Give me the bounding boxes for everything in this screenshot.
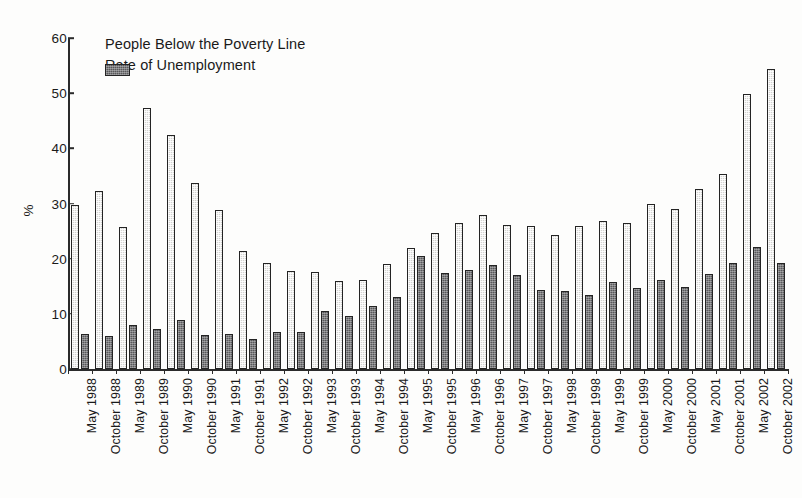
x-axis-tick-mark (500, 369, 501, 374)
plot-area (68, 38, 788, 369)
bar-unemployment (417, 256, 425, 369)
bar-poverty (359, 280, 367, 369)
x-axis-tick-label: October 1990 (205, 378, 219, 454)
x-axis-tick-mark (68, 369, 69, 374)
bar-poverty (407, 248, 415, 369)
legend-item-unemployment: Rate of Unemployment (105, 55, 305, 74)
bar-poverty (119, 227, 127, 369)
x-axis-tick-mark (164, 369, 165, 374)
bar-unemployment (729, 263, 737, 369)
x-axis-tick-label: October 1996 (493, 378, 507, 454)
bar-poverty (743, 94, 751, 369)
y-axis-tick-label: 50 (0, 86, 74, 101)
x-axis-tick-mark (260, 369, 261, 374)
x-axis-tick-label: May 2000 (661, 378, 675, 433)
x-axis-tick-label: October 1998 (589, 378, 603, 454)
bar-unemployment (393, 297, 401, 369)
x-axis-tick-label: October 1992 (301, 378, 315, 454)
bar-unemployment (489, 265, 497, 369)
x-axis-tick-label: May 1993 (325, 378, 339, 433)
bar-unemployment (105, 336, 113, 369)
y-axis-tick-label: 60 (0, 31, 74, 46)
bar-unemployment (369, 306, 377, 369)
x-axis-tick-mark (764, 369, 765, 374)
x-axis-tick-mark (572, 369, 573, 374)
bar-unemployment (321, 311, 329, 369)
x-axis-tick-mark (116, 369, 117, 374)
x-axis-tick-mark (332, 369, 333, 374)
bar-poverty (335, 281, 343, 369)
bar-poverty (215, 210, 223, 369)
x-axis-tick-label: May 1992 (277, 378, 291, 433)
bar-poverty (767, 69, 775, 369)
x-axis-tick-label: May 1989 (133, 378, 147, 433)
x-axis-tick-label: May 1988 (85, 378, 99, 433)
bar-poverty (719, 174, 727, 369)
legend-label-poverty: People Below the Poverty Line (105, 36, 305, 52)
bar-unemployment (81, 334, 89, 369)
bar-poverty (383, 264, 391, 369)
bar-poverty (671, 209, 679, 369)
x-axis-tick-label: October 1991 (253, 378, 267, 454)
bar-poverty (191, 183, 199, 369)
x-axis-tick-label: October 2000 (685, 378, 699, 454)
bar-chart: % 0102030405060 May 1988October 1988May … (0, 0, 802, 498)
x-axis-tick-mark (212, 369, 213, 374)
bar-unemployment (249, 339, 257, 369)
bar-unemployment (465, 270, 473, 369)
y-axis-tick-label: 10 (0, 306, 74, 321)
bar-poverty (263, 263, 271, 369)
x-axis-tick-mark (140, 369, 141, 374)
bar-poverty (599, 221, 607, 369)
x-axis-tick-label: May 2001 (709, 378, 723, 433)
bar-unemployment (177, 320, 185, 369)
x-axis-tick-mark (236, 369, 237, 374)
x-axis-tick-label: May 1998 (565, 378, 579, 433)
x-axis-tick-label: October 1993 (349, 378, 363, 454)
x-axis-tick-label: October 1997 (541, 378, 555, 454)
bar-poverty (311, 272, 319, 369)
bar-unemployment (513, 275, 521, 369)
x-axis-tick-mark (668, 369, 669, 374)
bar-poverty (71, 205, 79, 369)
bar-unemployment (441, 273, 449, 369)
x-axis-tick-label: October 1999 (637, 378, 651, 454)
x-axis-tick-mark (548, 369, 549, 374)
bar-poverty (167, 135, 175, 369)
bar-unemployment (681, 287, 689, 369)
x-axis-tick-mark (356, 369, 357, 374)
x-axis-tick-mark (644, 369, 645, 374)
bar-poverty (503, 225, 511, 369)
x-axis-tick-mark (452, 369, 453, 374)
x-axis-tick-mark (596, 369, 597, 374)
bar-unemployment (273, 332, 281, 369)
x-axis-tick-mark (308, 369, 309, 374)
x-axis-tick-mark (476, 369, 477, 374)
x-axis-tick-label: May 1999 (613, 378, 627, 433)
x-axis-tick-mark (716, 369, 717, 374)
x-axis-tick-mark (524, 369, 525, 374)
bar-poverty (239, 251, 247, 369)
bar-poverty (455, 223, 463, 369)
bar-unemployment (753, 247, 761, 369)
bar-unemployment (201, 335, 209, 369)
chart-legend: People Below the Poverty Line Rate of Un… (105, 34, 305, 76)
bar-unemployment (609, 282, 617, 369)
x-axis-tick-mark (788, 369, 789, 374)
bar-poverty (479, 215, 487, 369)
bar-poverty (527, 226, 535, 369)
legend-item-poverty: People Below the Poverty Line (105, 34, 305, 53)
y-axis-tick-label: 40 (0, 141, 74, 156)
bar-unemployment (345, 316, 353, 370)
x-axis-tick-mark (692, 369, 693, 374)
x-axis-tick-mark (428, 369, 429, 374)
x-axis-tick-label: October 1995 (445, 378, 459, 454)
y-axis-tick-label: 0 (0, 362, 74, 377)
x-axis-tick-label: October 1994 (397, 378, 411, 454)
bar-poverty (95, 191, 103, 369)
x-axis-tick-label: May 1994 (373, 378, 387, 433)
x-axis-tick-mark (404, 369, 405, 374)
bar-unemployment (153, 329, 161, 369)
bar-unemployment (129, 325, 137, 369)
legend-swatch-unemployment-icon (105, 64, 130, 76)
